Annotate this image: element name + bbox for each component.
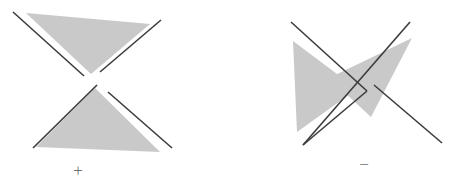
plus-sign-label: + [73, 161, 83, 180]
figure-canvas: + − [0, 0, 460, 188]
minus-sign-label: − [359, 155, 369, 174]
